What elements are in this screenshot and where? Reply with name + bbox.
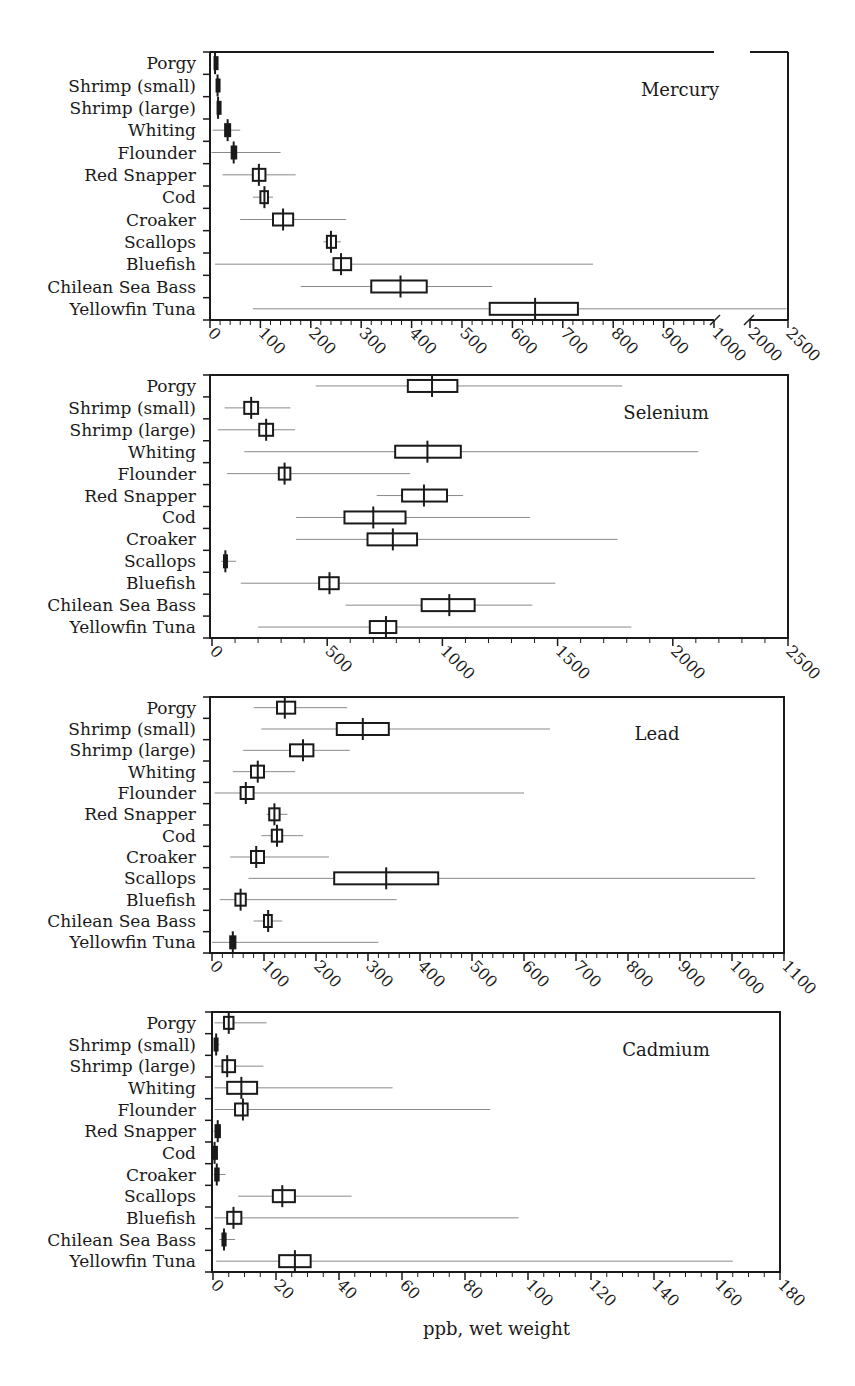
x-tick-label: 1500 (552, 641, 594, 683)
x-tick-label: 0 (207, 1275, 228, 1296)
category-label: Yellowfin Tuna (68, 932, 196, 952)
category-label: Porgy (146, 1013, 196, 1033)
box-scallops (248, 867, 755, 889)
box-porgy (316, 375, 622, 397)
x-tick-label: 500 (466, 956, 501, 991)
box-croaker (230, 846, 329, 868)
category-label: Scallops (124, 1186, 196, 1206)
box-flounder (215, 782, 524, 804)
box-flounder (227, 463, 410, 485)
box-yellowfin-tuna (258, 616, 631, 638)
category-label: Cod (162, 826, 196, 846)
category-label: Whiting (128, 762, 196, 782)
box-chilean-sea-bass (346, 594, 533, 616)
category-label: Cod (162, 507, 196, 527)
x-tick-label: 500 (321, 641, 356, 676)
x-tick-label: 400 (406, 323, 441, 358)
category-label: Yellowfin Tuna (68, 617, 196, 637)
x-tick-label: 100 (255, 323, 290, 358)
category-label: Flounder (118, 1100, 197, 1120)
box-whiting (233, 761, 295, 783)
x-tick-label: 300 (362, 956, 397, 991)
box-croaker (240, 209, 346, 231)
x-tick-label: 200 (310, 956, 345, 991)
box-croaker (214, 1164, 226, 1186)
box-bluefish (215, 1207, 519, 1229)
category-label: Chilean Sea Bass (47, 911, 196, 931)
box-shrimp-large (243, 739, 350, 761)
box-chilean-sea-bass (254, 910, 283, 932)
category-label: Chilean Sea Bass (47, 277, 196, 297)
x-tick-label: 600 (507, 323, 542, 358)
category-label: Scallops (124, 551, 196, 571)
x-tick-label: 800 (622, 956, 657, 991)
category-label: Flounder (118, 783, 197, 803)
category-label: Flounder (118, 464, 197, 484)
category-label: Porgy (146, 376, 196, 396)
panel-cadmium: CadmiumPorgyShrimp (small)Shrimp (large)… (47, 1012, 809, 1311)
x-tick-label: 0 (206, 641, 227, 662)
category-label: Shrimp (large) (70, 1056, 196, 1076)
category-label: Whiting (128, 120, 196, 140)
x-tick-label: 2500 (782, 641, 824, 683)
x-tick-label: 0 (204, 323, 225, 344)
x-tick-label: 80 (459, 1275, 487, 1303)
box-yellowfin-tuna (253, 298, 787, 320)
category-label: Croaker (126, 210, 197, 230)
category-label: Croaker (126, 847, 197, 867)
category-label: Whiting (128, 442, 196, 462)
category-label: Croaker (126, 529, 197, 549)
x-tick-label: 600 (518, 956, 553, 991)
box-plot-figure: MercuryPorgyShrimp (small)Shrimp (large)… (0, 0, 855, 1386)
category-label: Flounder (118, 143, 197, 163)
category-label: Cod (162, 1143, 196, 1163)
category-label: Yellowfin Tuna (68, 1251, 196, 1271)
x-tick-label: 100 (258, 956, 293, 991)
category-label: Yellowfin Tuna (68, 299, 196, 319)
x-tick-label: 120 (585, 1275, 620, 1310)
x-tick-label: 1000 (708, 323, 750, 365)
category-label: Shrimp (large) (70, 98, 196, 118)
category-label: Whiting (128, 1078, 196, 1098)
box-shrimp-large (215, 1055, 264, 1077)
box-bluefish (241, 572, 555, 594)
box-shrimp-large (217, 97, 221, 119)
x-tick-label: 700 (557, 323, 592, 358)
category-label: Scallops (124, 868, 196, 888)
x-tick-label: 900 (674, 956, 709, 991)
box-porgy (254, 697, 348, 719)
box-porgy (214, 52, 218, 74)
category-label: Chilean Sea Bass (47, 1230, 196, 1250)
axis-break-mark (710, 315, 754, 325)
category-label: Shrimp (small) (68, 1035, 196, 1055)
x-tick-label: 300 (355, 323, 390, 358)
category-label: Croaker (126, 1165, 197, 1185)
category-label: Scallops (124, 232, 196, 252)
category-label: Cod (162, 187, 196, 207)
box-flounder (215, 1099, 491, 1121)
category-label: Bluefish (126, 1208, 196, 1228)
x-tick-label: 140 (648, 1275, 683, 1310)
x-tick-label: 0 (206, 956, 227, 977)
box-flounder (212, 142, 281, 164)
box-shrimp-large (218, 419, 295, 441)
x-tick-label: 700 (570, 956, 605, 991)
box-red-snapper (214, 1120, 221, 1142)
category-label: Red Snapper (84, 804, 197, 824)
category-label: Red Snapper (84, 165, 197, 185)
box-cod (261, 825, 303, 847)
box-whiting (215, 1077, 393, 1099)
box-cod (253, 186, 273, 208)
category-label: Red Snapper (84, 1121, 197, 1141)
x-tick-label: 40 (333, 1275, 361, 1303)
box-shrimp-small (215, 1034, 220, 1056)
x-tick-label: 180 (774, 1275, 809, 1310)
category-label: Red Snapper (84, 486, 197, 506)
x-tick-label: 60 (396, 1275, 424, 1303)
box-yellowfin-tuna (216, 1250, 733, 1272)
x-tick-label: 2500 (782, 323, 824, 365)
panel-mercury: MercuryPorgyShrimp (small)Shrimp (large)… (47, 52, 824, 366)
box-chilean-sea-bass (219, 1229, 235, 1251)
category-label: Shrimp (small) (68, 719, 196, 739)
x-tick-label: 1000 (726, 956, 768, 998)
